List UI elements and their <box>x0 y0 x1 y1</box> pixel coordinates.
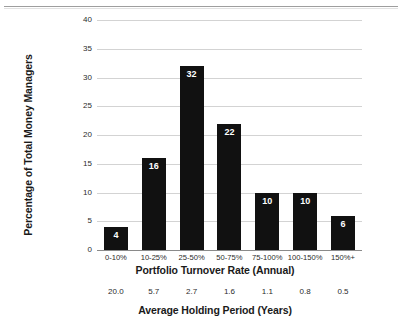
y-tick-label-10: 10 <box>83 189 92 197</box>
y-tick-label-30: 30 <box>83 74 92 82</box>
bar-value-label-6: 6 <box>331 220 355 229</box>
bar-3[interactable]: 22 <box>217 124 241 251</box>
y-axis-title: Percentage of Total Money Managers <box>21 25 35 265</box>
y-tick-label-0: 0 <box>88 246 92 254</box>
bar-value-label-1: 16 <box>142 162 166 171</box>
x-tick-label-6: 150%+ <box>320 254 366 262</box>
bar-4[interactable]: 10 <box>255 193 279 251</box>
bar-1[interactable]: 16 <box>142 158 166 250</box>
bar-value-label-3: 22 <box>217 128 241 137</box>
page-header-rule <box>4 6 398 7</box>
bar-6[interactable]: 6 <box>331 216 355 251</box>
bar-series: 4 16 32 22 10 <box>97 20 362 250</box>
y-tick-label-35: 35 <box>83 45 92 53</box>
page-header-rule-secondary <box>4 8 398 9</box>
bar-0[interactable]: 4 <box>104 227 128 250</box>
secondary-x-tick-label-6: 0.5 <box>320 288 366 296</box>
bar-value-label-2: 32 <box>180 70 204 79</box>
plot-area: 40 35 30 25 20 15 10 5 0 4 <box>97 20 362 250</box>
bar-2[interactable]: 32 <box>180 66 204 250</box>
bar-slot-0: 4 <box>97 20 135 250</box>
y-tick-label-15: 15 <box>83 160 92 168</box>
bar-slot-3: 22 <box>211 20 249 250</box>
bar-slot-1: 16 <box>135 20 173 250</box>
secondary-x-axis-title: Average Holding Period (Years) <box>60 304 370 317</box>
bar-slot-6: 6 <box>324 20 362 250</box>
chart-figure: Percentage of Total Money Managers 40 35… <box>0 0 402 327</box>
bar-slot-4: 10 <box>248 20 286 250</box>
y-tick-label-40: 40 <box>83 16 92 24</box>
y-tick-label-5: 5 <box>88 217 92 225</box>
x-axis-title: Portfolio Turnover Rate (Annual) <box>60 264 370 277</box>
bar-value-label-5: 10 <box>293 197 317 206</box>
bar-value-label-0: 4 <box>104 231 128 240</box>
bar-slot-5: 10 <box>286 20 324 250</box>
gridline-0-baseline: 0 <box>97 250 362 251</box>
bar-value-label-4: 10 <box>255 197 279 206</box>
y-tick-label-20: 20 <box>83 131 92 139</box>
y-tick-label-25: 25 <box>83 102 92 110</box>
bar-slot-2: 32 <box>173 20 211 250</box>
bar-5[interactable]: 10 <box>293 193 317 251</box>
